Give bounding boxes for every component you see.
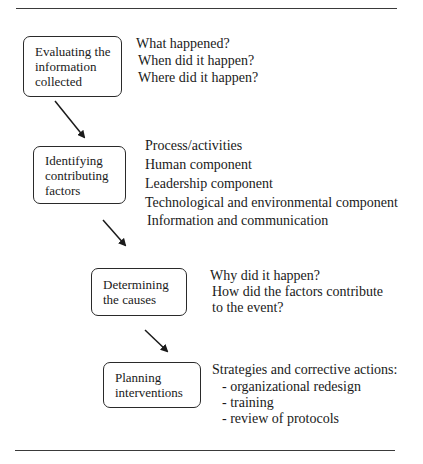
detail-item: Leadership component xyxy=(145,176,273,192)
step-box-identifying: Identifying contributing factors xyxy=(33,146,126,204)
detail-item: Process/activities xyxy=(145,138,242,154)
detail-item: to the event? xyxy=(212,300,284,316)
step-label-line: Identifying xyxy=(45,153,125,168)
step-box-determining: Determining the causes xyxy=(91,268,187,316)
detail-item: Technological and environmental componen… xyxy=(145,195,398,211)
detail-item: - organizational redesign xyxy=(222,379,361,395)
step-label-line: collected xyxy=(35,74,121,89)
step-label-line: Determining xyxy=(103,277,186,292)
detail-item: Human component xyxy=(145,157,252,173)
detail-item: When did it happen? xyxy=(138,53,254,69)
arrow-down-right-icon xyxy=(55,101,84,137)
detail-item: How did the factors contribute xyxy=(212,284,383,300)
detail-item: Information and communication xyxy=(147,213,328,229)
step-label-line: interventions xyxy=(115,385,200,400)
arrow-down-right-icon xyxy=(103,220,125,245)
arrow-down-right-icon xyxy=(145,330,167,351)
detail-item: Where did it happen? xyxy=(138,70,258,86)
step-label-line: factors xyxy=(45,183,125,198)
detail-item: What happened? xyxy=(136,36,230,52)
detail-item: Why did it happen? xyxy=(210,268,320,284)
step-label-line: the causes xyxy=(103,292,186,307)
detail-item: - training xyxy=(222,395,274,411)
detail-item: - review of protocols xyxy=(222,411,339,427)
step-label-line: Planning xyxy=(115,370,200,385)
step-label-line: Evaluating the xyxy=(35,44,121,59)
step-label-line: contributing xyxy=(45,168,125,183)
detail-heading: Strategies and corrective actions: xyxy=(212,362,397,378)
step-box-evaluating: Evaluating the information collected xyxy=(23,36,122,97)
step-label-line: information xyxy=(35,59,121,74)
step-box-planning: Planning interventions xyxy=(103,362,201,408)
